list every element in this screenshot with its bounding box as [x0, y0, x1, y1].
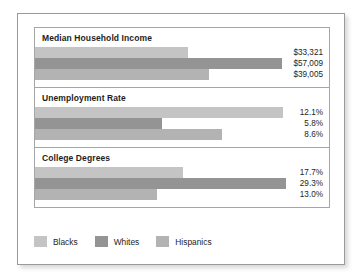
legend-label: Whites [114, 237, 140, 247]
bar-value-label: $57,009 [293, 58, 323, 69]
bar-value-label: 5.8% [304, 118, 323, 129]
legend-swatch-icon [95, 236, 108, 247]
bar-value-label: $33,321 [293, 47, 323, 58]
bar-row: $33,321 [35, 47, 329, 58]
bar-row: $57,009 [35, 58, 329, 69]
bar-whites [35, 118, 162, 129]
legend-item-whites: Whites [95, 236, 140, 247]
bar-value-label: 13.0% [300, 189, 323, 200]
bar-blacks [35, 107, 283, 118]
bar-row: $39,005 [35, 69, 329, 80]
panel-title: College Degrees [35, 148, 329, 167]
bar-whites [35, 58, 282, 69]
panel-college-degrees: College Degrees 17.7% 29.3% 13.0% [34, 147, 330, 208]
legend-item-hispanics: Hispanics [156, 236, 211, 247]
bar-row: 29.3% [35, 178, 329, 189]
legend-label: Blacks [53, 237, 78, 247]
panel-unemployment-rate: Unemployment Rate 12.1% 5.8% 8.6% [34, 87, 330, 147]
bar-blacks [35, 167, 183, 178]
bar-rows: $33,321 $57,009 $39,005 [35, 47, 329, 87]
bar-value-label: 17.7% [300, 167, 323, 178]
legend-swatch-icon [156, 236, 169, 247]
bar-value-label: $39,005 [293, 69, 323, 80]
bar-row: 13.0% [35, 189, 329, 200]
bar-hispanics [35, 189, 157, 200]
bar-row: 12.1% [35, 107, 329, 118]
bar-value-label: 12.1% [300, 107, 323, 118]
bar-row: 5.8% [35, 118, 329, 129]
legend-item-blacks: Blacks [34, 236, 78, 247]
legend-label: Hispanics [175, 237, 211, 247]
bar-rows: 12.1% 5.8% 8.6% [35, 107, 329, 147]
bar-row: 17.7% [35, 167, 329, 178]
bar-row: 8.6% [35, 129, 329, 140]
panel-group: Median Household Income $33,321 $57,009 … [34, 27, 330, 208]
bar-rows: 17.7% 29.3% 13.0% [35, 167, 329, 207]
bar-blacks [35, 47, 188, 58]
bar-whites [35, 178, 286, 189]
chart-figure: Median Household Income $33,321 $57,009 … [17, 13, 345, 265]
bar-hispanics [35, 129, 222, 140]
panel-title: Unemployment Rate [35, 88, 329, 107]
bar-value-label: 29.3% [300, 178, 323, 189]
bar-hispanics [35, 69, 209, 80]
chart-legend: Blacks Whites Hispanics [34, 236, 229, 247]
legend-swatch-icon [34, 236, 47, 247]
panel-title: Median Household Income [35, 28, 329, 47]
bar-value-label: 8.6% [304, 129, 323, 140]
panel-median-household-income: Median Household Income $33,321 $57,009 … [34, 27, 330, 87]
